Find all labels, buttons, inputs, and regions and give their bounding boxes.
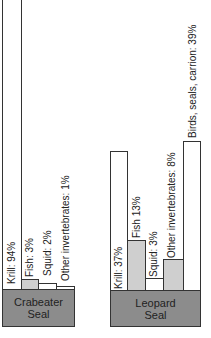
crabeater-fish-label: Fish: 3%: [24, 238, 35, 277]
crabeater-other-label: Other invertebrates: 1%: [60, 175, 71, 281]
leopard-other-label: Other invertebrates: 8%: [166, 152, 177, 258]
crabeater-seal-base: Crabeater Seal: [2, 289, 75, 327]
leopard-seal-base: Leopard Seal: [110, 290, 201, 327]
crabeater-krill-label: Krill: 94%: [6, 242, 17, 284]
leopard-birds-label: Birds, seals, carrion: 39%: [187, 25, 198, 138]
leopard-other-bar: [163, 259, 184, 291]
leopard-base-line1: Leopard: [135, 297, 175, 309]
crabeater-base-line1: Crabeater: [14, 296, 63, 308]
leopard-krill-label: Krill: 37%: [113, 247, 124, 289]
crabeater-base-line2: Seal: [27, 308, 49, 320]
crabeater-squid-label: Squid: 2%: [42, 230, 53, 276]
leopard-base-line2: Seal: [144, 309, 166, 321]
leopard-squid-label: Squid: 3%: [148, 231, 159, 277]
leopard-fish-label: Fish 13%: [131, 196, 142, 238]
leopard-birds-bar: [183, 141, 201, 291]
leopard-fish-bar: [127, 240, 146, 291]
